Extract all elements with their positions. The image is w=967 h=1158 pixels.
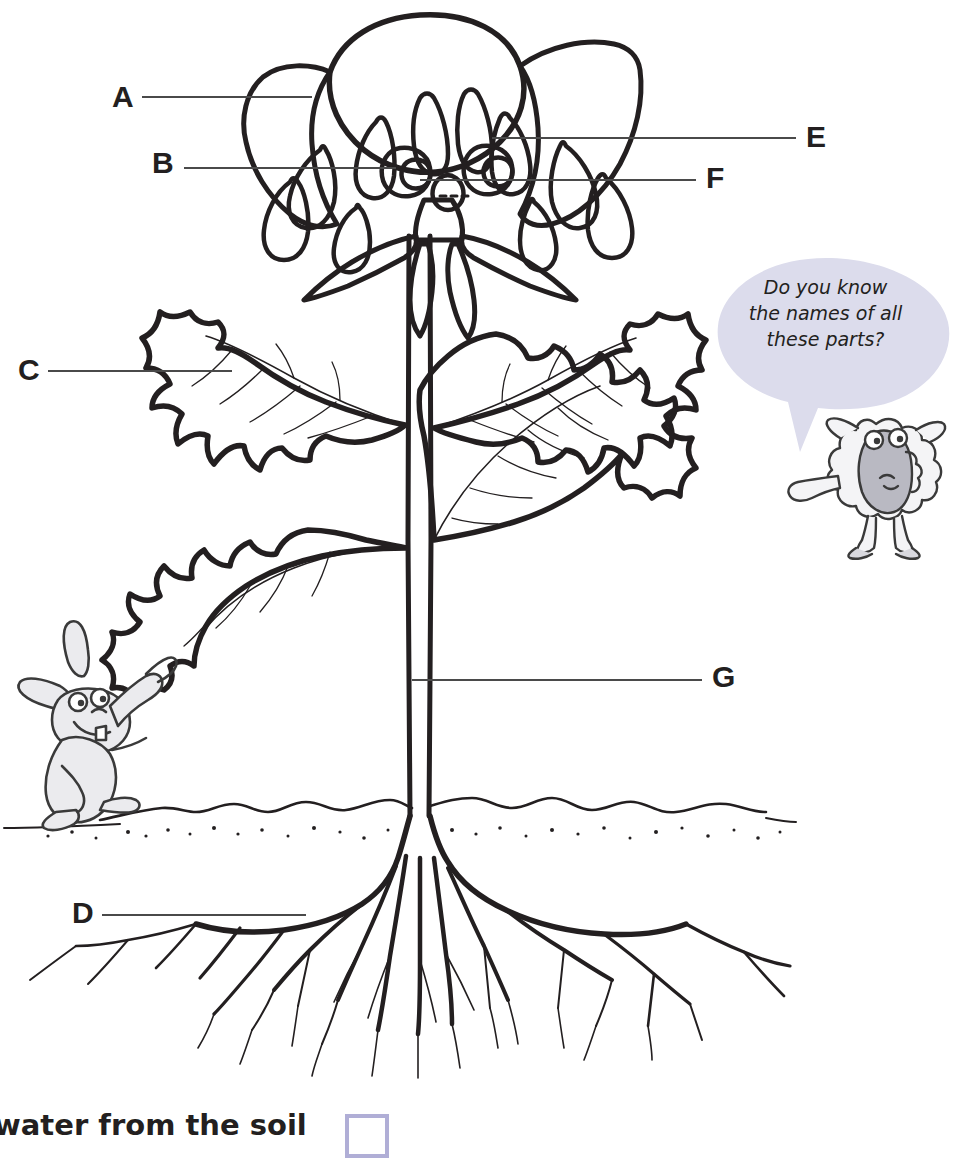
label-c: C xyxy=(18,355,40,385)
caption-row: water from the soil xyxy=(0,1108,967,1148)
label-e: E xyxy=(806,122,826,152)
label-d: D xyxy=(72,898,94,928)
label-g: G xyxy=(712,662,735,692)
label-f: F xyxy=(706,163,724,193)
caption-text: water from the soil xyxy=(0,1108,307,1142)
label-a: A xyxy=(112,82,134,112)
caption-checkbox[interactable] xyxy=(345,1114,389,1158)
label-b: B xyxy=(152,148,174,178)
